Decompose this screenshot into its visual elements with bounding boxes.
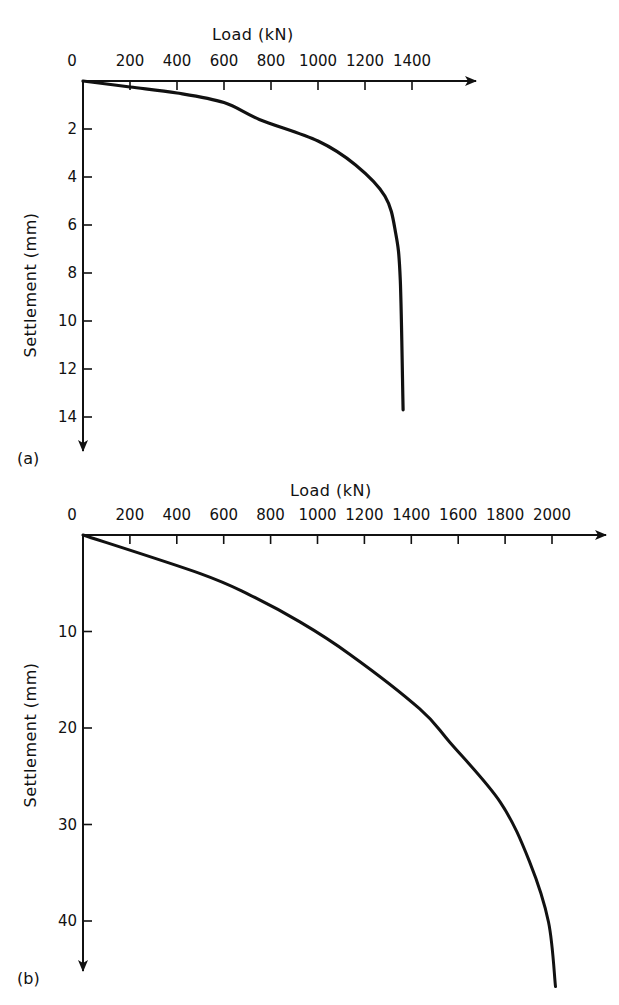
x-tick-label: 2000 <box>533 506 571 524</box>
y-tick-label: 8 <box>67 264 77 282</box>
x-tick-label: 600 <box>210 52 239 70</box>
x-tick-label: 800 <box>257 52 286 70</box>
y-axis-title-a: Settlement (mm) <box>21 213 40 358</box>
panel-label-a: (a) <box>17 449 39 468</box>
x-tick-label: 0 <box>67 506 77 524</box>
y-tick-label: 2 <box>67 120 77 138</box>
y-axis-title-b: Settlement (mm) <box>21 663 40 808</box>
y-tick-label: 10 <box>58 623 77 641</box>
y-tick-label: 14 <box>58 408 77 426</box>
x-tick-label: 400 <box>163 52 192 70</box>
chart-panel-b: Load (kN) 020040060080010001200140016001… <box>17 481 606 988</box>
x-axis-title-a: Load (kN) <box>212 25 294 44</box>
x-tick-label: 800 <box>256 506 285 524</box>
y-tick-label: 20 <box>58 719 77 737</box>
y-axis-ticks-b: 10203040 <box>58 623 92 931</box>
x-tick-label: 400 <box>162 506 191 524</box>
y-axis-ticks-a: 2468101214 <box>58 120 92 426</box>
y-tick-label: 30 <box>58 816 77 834</box>
y-tick-label: 10 <box>58 312 77 330</box>
x-tick-label: 1400 <box>393 52 431 70</box>
x-tick-label: 1200 <box>346 52 384 70</box>
panel-label-b: (b) <box>17 969 40 988</box>
figure: Load (kN) 0200400600800100012001400 2468… <box>0 0 619 1005</box>
x-tick-label: 1400 <box>392 506 430 524</box>
x-tick-label: 200 <box>116 52 145 70</box>
data-line-a <box>83 81 403 410</box>
x-axis-ticks-a: 0200400600800100012001400 <box>67 52 431 90</box>
x-axis-ticks-b: 0200400600800100012001400160018002000 <box>67 506 571 544</box>
x-tick-label: 1200 <box>345 506 383 524</box>
y-tick-label: 4 <box>67 168 77 186</box>
y-tick-label: 40 <box>58 912 77 930</box>
x-tick-label: 1600 <box>439 506 477 524</box>
x-axis-title-b: Load (kN) <box>290 481 372 500</box>
y-tick-label: 12 <box>58 360 77 378</box>
x-tick-label: 200 <box>116 506 145 524</box>
y-tick-label: 6 <box>67 216 77 234</box>
x-tick-label: 0 <box>67 52 77 70</box>
chart-panel-a: Load (kN) 0200400600800100012001400 2468… <box>17 25 476 468</box>
x-tick-label: 600 <box>209 506 238 524</box>
x-tick-label: 1800 <box>486 506 524 524</box>
data-line-b <box>83 535 556 987</box>
x-tick-label: 1000 <box>298 506 336 524</box>
x-tick-label: 1000 <box>299 52 337 70</box>
